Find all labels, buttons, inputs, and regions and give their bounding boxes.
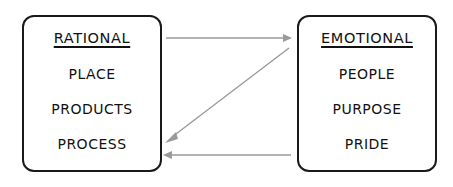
box-item-people: PEOPLE [339, 67, 395, 81]
box-heading-rational: RATIONAL [54, 31, 130, 46]
connector-emotional-to-rational-straight [163, 151, 291, 159]
box-item-purpose: PURPOSE [332, 102, 401, 116]
connector-emotional-to-rational-diagonal [165, 48, 289, 143]
box-item-place: PLACE [68, 67, 115, 81]
diagram-canvas: RATIONAL PLACE PRODUCTS PROCESS EMOTIONA… [0, 0, 453, 187]
box-heading-emotional: EMOTIONAL [321, 31, 413, 46]
box-item-products: PRODUCTS [51, 102, 132, 116]
concept-box-rational: RATIONAL PLACE PRODUCTS PROCESS [22, 15, 162, 172]
connector-rational-to-emotional [166, 34, 292, 42]
box-item-pride: PRIDE [345, 137, 389, 151]
box-item-process: PROCESS [57, 137, 126, 151]
concept-box-emotional: EMOTIONAL PEOPLE PURPOSE PRIDE [297, 15, 437, 172]
